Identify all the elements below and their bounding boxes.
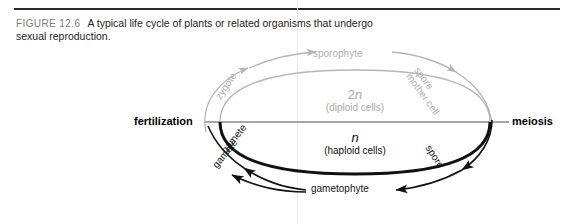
haploid-annotation: n (haploid cells)	[296, 131, 414, 157]
sporophyte-arrow-left	[249, 52, 316, 68]
diploid-letter: n	[355, 87, 362, 102]
label-gametophyte: gametophyte	[311, 183, 369, 194]
label-meiosis: meiosis	[512, 115, 553, 127]
gamete-arrow-inner	[232, 175, 306, 192]
diploid-annotation: 2n (diploid cells)	[296, 88, 414, 114]
haploid-description: (haploid cells)	[296, 144, 414, 157]
diploid-number: 2	[348, 87, 355, 102]
label-fertilization: fertilization	[134, 115, 193, 127]
diagram-canvas	[0, 0, 572, 224]
spore-mother-cell-arc	[456, 72, 492, 124]
diploid-description: (diploid cells)	[296, 101, 414, 114]
life-cycle-diagram: fertilization meiosis 2n (diploid cells)…	[0, 0, 572, 224]
diploid-symbol: 2n	[296, 88, 414, 101]
label-sporophyte: sporophyte	[313, 48, 362, 59]
haploid-symbol: n	[296, 131, 414, 144]
spore-arrow	[462, 120, 492, 170]
